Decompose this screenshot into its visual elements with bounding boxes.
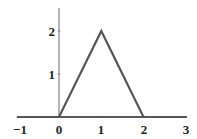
- series-line: [17, 31, 186, 117]
- x-tick-label: 3: [183, 122, 190, 137]
- x-tick-label: 2: [141, 122, 148, 137]
- x-tick-label: 0: [56, 122, 63, 137]
- y-tick-label: 2: [49, 24, 56, 39]
- x-tick-label: 1: [98, 122, 105, 137]
- chart: −1 0 1 2 3 1 2: [0, 0, 197, 139]
- x-tick-label: −1: [13, 122, 27, 137]
- y-tick-label: 1: [49, 67, 56, 82]
